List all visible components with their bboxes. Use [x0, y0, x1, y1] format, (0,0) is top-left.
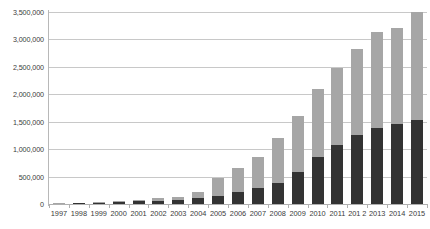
x-tick	[347, 204, 367, 208]
y-tick-label: 1,500,000	[13, 117, 44, 126]
x-tick-label: 2001	[129, 209, 149, 223]
x-tick-mark	[308, 204, 309, 208]
bar-stack[interactable]	[272, 138, 284, 204]
x-tick	[228, 204, 248, 208]
x-tick-mark	[109, 204, 110, 208]
bar-stack[interactable]	[331, 68, 343, 204]
x-tick-mark	[387, 204, 388, 208]
bar-segment-upper[interactable]	[371, 32, 383, 129]
bar-stack[interactable]	[391, 28, 403, 204]
bar-stack[interactable]	[351, 49, 363, 204]
bar-stack[interactable]	[192, 192, 204, 204]
x-axis-ticks	[49, 204, 427, 208]
x-tick	[248, 204, 268, 208]
x-tick-mark	[49, 204, 50, 208]
x-tick-label: 2008	[268, 209, 288, 223]
x-tick-label: 2002	[148, 209, 168, 223]
bar-segment-lower[interactable]	[411, 120, 423, 204]
bar-segment-upper[interactable]	[351, 49, 363, 135]
bar-group[interactable]	[69, 12, 89, 204]
stacked-bar-chart: 3,500,0003,000,0002,500,0002,000,0001,50…	[0, 0, 430, 229]
bar-segment-lower[interactable]	[252, 188, 264, 204]
bar-series-container	[49, 12, 427, 204]
bar-group[interactable]	[327, 12, 347, 204]
x-tick	[188, 204, 208, 208]
bar-group[interactable]	[208, 12, 228, 204]
x-axis-tick-end	[427, 204, 428, 208]
bar-segment-upper[interactable]	[232, 168, 244, 192]
bar-segment-lower[interactable]	[391, 124, 403, 204]
bar-segment-lower[interactable]	[331, 145, 343, 204]
bar-segment-upper[interactable]	[391, 28, 403, 124]
bar-stack[interactable]	[411, 12, 423, 204]
x-tick-label: 201 2	[347, 209, 367, 223]
bar-group[interactable]	[268, 12, 288, 204]
bar-segment-upper[interactable]	[331, 68, 343, 145]
bar-segment-lower[interactable]	[212, 196, 224, 204]
y-tick-label: 2,000,000	[13, 90, 44, 99]
bar-segment-lower[interactable]	[292, 172, 304, 204]
bar-segment-upper[interactable]	[212, 178, 224, 196]
bar-segment-upper[interactable]	[292, 116, 304, 171]
x-tick-label: 2000	[109, 209, 129, 223]
x-tick	[148, 204, 168, 208]
x-tick-label: 2004	[188, 209, 208, 223]
bar-segment-lower[interactable]	[272, 183, 284, 204]
bar-group[interactable]	[367, 12, 387, 204]
x-tick	[69, 204, 89, 208]
x-tick	[109, 204, 129, 208]
bar-group[interactable]	[109, 12, 129, 204]
bar-group[interactable]	[308, 12, 328, 204]
bar-group[interactable]	[129, 12, 149, 204]
bar-stack[interactable]	[232, 168, 244, 204]
bar-stack[interactable]	[172, 197, 184, 204]
bar-group[interactable]	[188, 12, 208, 204]
x-tick	[268, 204, 288, 208]
x-tick-mark	[367, 204, 368, 208]
bar-segment-upper[interactable]	[272, 138, 284, 183]
bar-segment-upper[interactable]	[411, 12, 423, 120]
x-tick-mark	[268, 204, 269, 208]
bar-group[interactable]	[288, 12, 308, 204]
plot-area	[49, 12, 427, 204]
x-tick-label: 2003	[168, 209, 188, 223]
bar-stack[interactable]	[252, 157, 264, 204]
bar-group[interactable]	[228, 12, 248, 204]
x-tick	[367, 204, 387, 208]
bar-stack[interactable]	[292, 116, 304, 204]
bar-segment-upper[interactable]	[252, 157, 264, 188]
x-tick-label: 2013	[367, 209, 387, 223]
bar-segment-lower[interactable]	[312, 157, 324, 204]
x-tick-label: 1998	[69, 209, 89, 223]
x-tick-mark	[188, 204, 189, 208]
x-tick-mark	[69, 204, 70, 208]
bar-segment-upper[interactable]	[312, 89, 324, 157]
bar-stack[interactable]	[371, 32, 383, 204]
x-tick	[387, 204, 407, 208]
bar-segment-lower[interactable]	[232, 192, 244, 204]
bar-segment-lower[interactable]	[371, 128, 383, 204]
y-tick-label: 1,000,000	[13, 145, 44, 154]
x-tick-label: 2005	[208, 209, 228, 223]
x-tick-mark	[248, 204, 249, 208]
x-tick-mark	[89, 204, 90, 208]
bar-segment-lower[interactable]	[351, 135, 363, 204]
x-tick	[327, 204, 347, 208]
x-tick-label: 2010	[308, 209, 328, 223]
bar-group[interactable]	[89, 12, 109, 204]
x-tick	[89, 204, 109, 208]
bar-group[interactable]	[347, 12, 367, 204]
bar-group[interactable]	[407, 12, 427, 204]
bar-group[interactable]	[168, 12, 188, 204]
x-tick-mark	[407, 204, 408, 208]
bar-group[interactable]	[148, 12, 168, 204]
x-tick-mark	[327, 204, 328, 208]
bar-group[interactable]	[248, 12, 268, 204]
x-tick-label: 2007	[248, 209, 268, 223]
bar-group[interactable]	[49, 12, 69, 204]
x-tick	[168, 204, 188, 208]
y-tick-label: 0	[40, 200, 44, 209]
bar-stack[interactable]	[212, 178, 224, 204]
bar-stack[interactable]	[312, 89, 324, 204]
bar-group[interactable]	[387, 12, 407, 204]
